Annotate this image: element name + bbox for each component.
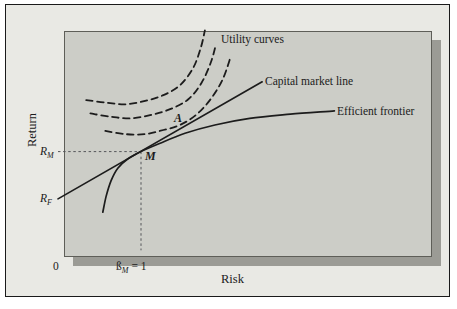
x-tick-beta-sub: M — [122, 266, 129, 275]
y-tick-rf: RF — [40, 192, 52, 205]
figure-page: Return RM RF 0 ßM= 1 Risk Utility curves… — [0, 0, 457, 309]
x-tick-beta: ßM= 1 — [116, 260, 147, 273]
x-axis-title: Risk — [221, 273, 244, 286]
y-tick-rf-sub: F — [47, 198, 52, 207]
plot-area — [64, 31, 432, 257]
utility-curves-label: Utility curves — [221, 33, 284, 46]
y-tick-rm-base: R — [40, 145, 47, 157]
point-a-label: A — [174, 112, 182, 125]
y-tick-rm: RM — [40, 145, 54, 158]
point-m-label: M — [145, 150, 156, 163]
figure-frame — [5, 4, 450, 297]
y-tick-rm-sub: M — [47, 151, 54, 160]
y-axis-title: Return — [26, 113, 39, 147]
y-tick-rf-base: R — [40, 192, 47, 204]
x-tick-beta-eq: = 1 — [131, 260, 146, 272]
capital-market-line-label: Capital market line — [265, 75, 353, 88]
efficient-frontier-label: Efficient frontier — [337, 105, 414, 118]
x-tick-origin: 0 — [53, 260, 59, 273]
